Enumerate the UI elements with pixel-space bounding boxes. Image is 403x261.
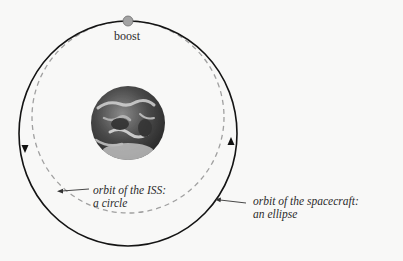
- direction-arrow-down-icon: [22, 145, 29, 153]
- orbit-diagram-graphic: [0, 0, 403, 261]
- iss-orbit-label-line2: a circle: [93, 197, 166, 210]
- spacecraft-orbit-label: orbit of the spacecraft: an ellipse: [253, 195, 359, 221]
- earth-globe: [91, 86, 165, 161]
- spacecraft-orbit-label-line2: an ellipse: [253, 208, 359, 221]
- iss-pointer-arrowhead-icon: [57, 189, 63, 194]
- iss-orbit-label-line1: orbit of the ISS:: [93, 184, 166, 197]
- boost-point: [123, 16, 133, 26]
- boost-label: boost: [114, 29, 140, 44]
- spacecraft-label-pointer: [220, 200, 246, 203]
- iss-orbit-label: orbit of the ISS: a circle: [93, 184, 166, 210]
- spacecraft-orbit-label-line1: orbit of the spacecraft:: [253, 195, 359, 208]
- direction-arrow-up-icon: [228, 137, 235, 145]
- orbit-diagram: boost orbit of the ISS: a circle orbit o…: [0, 0, 403, 261]
